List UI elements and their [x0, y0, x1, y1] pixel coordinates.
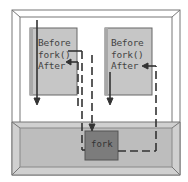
- child-line-fork: fork(): [111, 49, 144, 61]
- fork-label: fork: [91, 139, 113, 149]
- parent-line-before: Before: [38, 37, 71, 49]
- parent-process-code: Before fork() After: [38, 37, 71, 72]
- parent-line-fork: fork(): [38, 49, 71, 61]
- fork-diagram: [0, 0, 188, 182]
- child-process-code: Before fork() After: [111, 37, 144, 72]
- child-line-before: Before: [111, 37, 144, 49]
- parent-line-after: After: [38, 60, 71, 72]
- child-line-after: After: [111, 60, 144, 72]
